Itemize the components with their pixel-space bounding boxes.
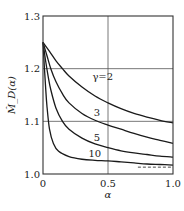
curve-label: 10: [89, 148, 102, 159]
y-tick-labels: 1.01.11.21.3: [24, 11, 40, 180]
curve-label: γ=2: [92, 71, 113, 82]
curve-label: 3: [94, 107, 100, 118]
x-axis-label: α: [105, 189, 112, 200]
x-tick-label: 1.0: [165, 178, 181, 189]
x-tick-label: 0.5: [100, 178, 116, 189]
chart: 00.51.0 1.01.11.21.3 γ=23510 α M̂_D(α): [0, 0, 184, 211]
x-tick-labels: 00.51.0: [40, 178, 181, 189]
x-tick-label: 0: [40, 178, 46, 189]
y-tick-label: 1.2: [24, 63, 40, 74]
y-tick-label: 1.0: [24, 169, 40, 180]
y-tick-label: 1.1: [24, 116, 40, 127]
y-tick-label: 1.3: [24, 11, 40, 22]
curve-label: 5: [94, 132, 100, 143]
y-axis-label: M̂_D(α): [6, 76, 18, 115]
